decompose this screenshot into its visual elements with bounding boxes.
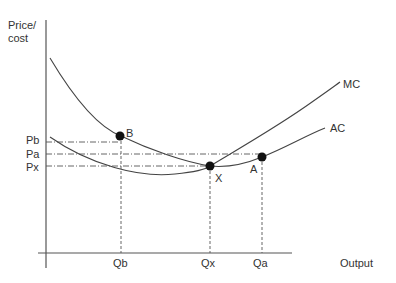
point-label-x: X bbox=[215, 172, 222, 185]
point-a bbox=[258, 153, 267, 162]
cost-curve-diagram bbox=[0, 0, 396, 283]
quantity-label-qb: Qb bbox=[113, 257, 128, 270]
price-label-pa: Pa bbox=[26, 148, 39, 161]
price-label-pb: Pb bbox=[26, 134, 39, 147]
point-b bbox=[116, 132, 125, 141]
price-label-px: Px bbox=[26, 161, 39, 174]
mc-curve bbox=[50, 82, 340, 175]
mc-curve-label: MC bbox=[343, 78, 360, 91]
quantity-label-qx: Qx bbox=[201, 257, 215, 270]
quantity-label-qa: Qa bbox=[253, 257, 268, 270]
y-axis-label-line1: Price/ bbox=[8, 19, 36, 32]
y-axis-label-line2: cost bbox=[8, 32, 28, 45]
point-x bbox=[206, 162, 215, 171]
x-axis-label: Output bbox=[340, 257, 373, 270]
ac-curve-label: AC bbox=[330, 122, 345, 135]
point-label-b: B bbox=[126, 127, 133, 140]
point-label-a: A bbox=[250, 163, 257, 176]
ac-curve bbox=[50, 58, 325, 166]
